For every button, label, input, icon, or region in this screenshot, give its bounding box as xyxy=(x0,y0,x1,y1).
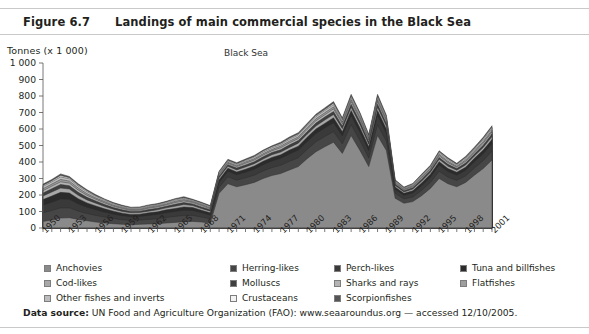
legend-color-swatch-icon xyxy=(44,295,51,302)
data-source-label: Data source: xyxy=(23,307,89,318)
legend-label: Anchovies xyxy=(56,263,102,273)
legend-item[interactable]: Other fishes and inverts xyxy=(44,293,164,303)
y-tick-label: 100 xyxy=(18,206,36,217)
y-tick-label: 800 xyxy=(18,90,36,101)
legend-item[interactable]: Herring-likes xyxy=(230,263,299,273)
figure-footer: Data source: UN Food and Agriculture Org… xyxy=(0,306,589,328)
legend-label: Flatfishes xyxy=(472,278,515,288)
legend-item[interactable]: Crustaceans xyxy=(230,293,298,303)
legend-color-swatch-icon xyxy=(44,265,51,272)
legend-color-swatch-icon xyxy=(44,280,51,287)
legend-label: Herring-likes xyxy=(242,263,299,273)
legend-label: Tuna and billfishes xyxy=(472,263,555,273)
y-tick-label: 300 xyxy=(18,173,36,184)
y-tick-label: 1 000 xyxy=(10,58,36,68)
chart-panel-title: Black Sea xyxy=(196,48,296,58)
legend-label: Scorpionfishes xyxy=(346,293,412,303)
legend-color-swatch-icon xyxy=(334,265,341,272)
figure-header: Figure 6.7 Landings of main commercial s… xyxy=(0,8,589,35)
y-tick-label: 500 xyxy=(18,140,36,151)
y-tick-label: 600 xyxy=(18,123,36,134)
legend-color-swatch-icon xyxy=(230,280,237,287)
legend-item[interactable]: Perch-likes xyxy=(334,263,394,273)
stacked-area-chart: 01002003004005006007008009001 000 xyxy=(0,58,589,238)
legend-color-swatch-icon xyxy=(334,280,341,287)
y-tick-labels-group: 01002003004005006007008009001 000 xyxy=(10,58,36,233)
legend-label: Other fishes and inverts xyxy=(56,293,164,303)
legend-label: Sharks and rays xyxy=(346,278,418,288)
figure-title: Landings of main commercial species in t… xyxy=(115,15,471,29)
legend-item[interactable]: Cod-likes xyxy=(44,278,97,288)
legend-item[interactable]: Anchovies xyxy=(44,263,102,273)
legend-color-swatch-icon xyxy=(460,280,467,287)
data-source-line: Data source: UN Food and Agriculture Org… xyxy=(23,307,517,318)
y-tick-label: 200 xyxy=(18,189,36,200)
legend-item[interactable]: Scorpionfishes xyxy=(334,293,412,303)
legend-item[interactable]: Tuna and billfishes xyxy=(460,263,555,273)
legend-label: Perch-likes xyxy=(346,263,394,273)
legend-label: Molluscs xyxy=(242,278,280,288)
area-series-group xyxy=(43,94,492,228)
legend-color-swatch-icon xyxy=(334,295,341,302)
y-tick-label: 900 xyxy=(18,74,36,85)
x-axis-tick-labels: 1950195319561959196219651968197119741977… xyxy=(0,226,589,262)
legend-item[interactable]: Flatfishes xyxy=(460,278,515,288)
data-source-text: UN Food and Agriculture Organization (FA… xyxy=(89,307,518,318)
y-tick-label: 400 xyxy=(18,156,36,167)
chart-canvas: 01002003004005006007008009001 000 xyxy=(0,58,589,238)
legend-color-swatch-icon xyxy=(460,265,467,272)
legend-item[interactable]: Molluscs xyxy=(230,278,280,288)
chart-legend: AnchoviesHerring-likesPerch-likesTuna an… xyxy=(44,263,589,307)
y-tick-label: 700 xyxy=(18,107,36,118)
y-axis-unit-label: Tonnes (x 1 000) xyxy=(7,45,88,56)
figure-number: Figure 6.7 xyxy=(23,15,115,29)
legend-color-swatch-icon xyxy=(230,265,237,272)
legend-item[interactable]: Sharks and rays xyxy=(334,278,418,288)
legend-label: Cod-likes xyxy=(56,278,97,288)
legend-label: Crustaceans xyxy=(242,293,298,303)
legend-color-swatch-icon xyxy=(230,295,237,302)
